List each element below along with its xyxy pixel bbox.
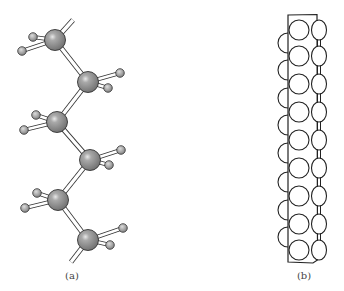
- carbon-atom: [48, 190, 69, 211]
- atom-outline: [289, 74, 309, 94]
- atom-outline: [289, 240, 309, 260]
- hydrogen-atom: [104, 84, 113, 93]
- hydrogen-atom: [18, 47, 27, 56]
- atom-outline: [312, 130, 327, 150]
- atom-outline: [289, 20, 309, 40]
- polyethylene-figure: (a) (b): [0, 0, 344, 291]
- hydrogen-outline: [278, 143, 288, 163]
- hydrogen-outline: [278, 88, 288, 108]
- hydrogen-atom: [105, 161, 114, 170]
- atom-outline: [312, 74, 327, 94]
- hydrogen-atom: [29, 33, 38, 42]
- panel-label-b: (b): [297, 270, 311, 281]
- atom-outline: [289, 130, 309, 150]
- chain-outline: [278, 15, 327, 264]
- atom-outline: [312, 158, 327, 178]
- atom-outline: [312, 214, 327, 234]
- panel-label-a: (a): [65, 270, 79, 281]
- hydrogen-atom: [33, 189, 42, 198]
- atom-outline: [312, 240, 327, 260]
- hydrogen-outline: [278, 115, 288, 135]
- carbon-atom: [80, 150, 101, 171]
- hydrogen-outline: [278, 200, 288, 220]
- hydrogen-atom: [119, 224, 128, 233]
- hydrogen-atom: [116, 69, 125, 78]
- hydrogen-outline: [278, 227, 288, 247]
- atom-outline: [312, 46, 327, 66]
- hydrogen-outline: [278, 60, 288, 80]
- atom-outline: [289, 214, 309, 234]
- hydrogen-atom: [32, 111, 41, 120]
- carbon-atom: [78, 230, 99, 251]
- hydrogen-atom: [21, 204, 30, 213]
- hydrogen-atom: [117, 146, 126, 155]
- ball-and-stick-model: (a): [18, 20, 128, 281]
- atom-outline: [312, 186, 327, 206]
- bonds: [22, 20, 123, 262]
- atom-outline: [312, 102, 327, 122]
- carbon-atom: [45, 30, 66, 51]
- atom-outline: [312, 20, 327, 40]
- hydrogen-outline: [278, 172, 288, 192]
- hydrogen-outline: [278, 33, 288, 53]
- atom-outline: [289, 46, 309, 66]
- atom-outline: [289, 186, 309, 206]
- atom-outline: [289, 158, 309, 178]
- space-filling-model: (b): [278, 15, 327, 282]
- carbon-atom: [78, 72, 99, 93]
- hydrogen-atom: [106, 241, 115, 250]
- carbon-atom: [47, 112, 68, 133]
- atom-outline: [289, 102, 309, 122]
- hydrogen-atom: [20, 126, 29, 135]
